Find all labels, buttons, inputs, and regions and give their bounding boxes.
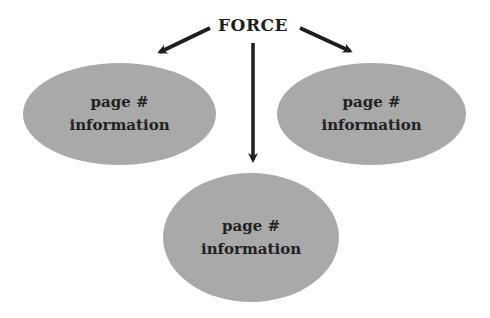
node-left-line2: information: [69, 114, 169, 137]
node-right: page # information: [277, 63, 466, 165]
arrow-to-right-icon: [300, 28, 350, 51]
diagram-title: FORCE: [203, 15, 303, 35]
node-right-line2: information: [321, 114, 421, 137]
node-left-line1: page #: [90, 91, 148, 114]
node-right-line1: page #: [342, 91, 400, 114]
diagram-canvas: FORCE page # information page # informat…: [0, 0, 490, 318]
node-bottom-line1: page #: [222, 215, 280, 238]
node-bottom: page # information: [163, 173, 339, 302]
node-left: page # information: [23, 63, 216, 165]
node-bottom-line2: information: [201, 238, 301, 261]
